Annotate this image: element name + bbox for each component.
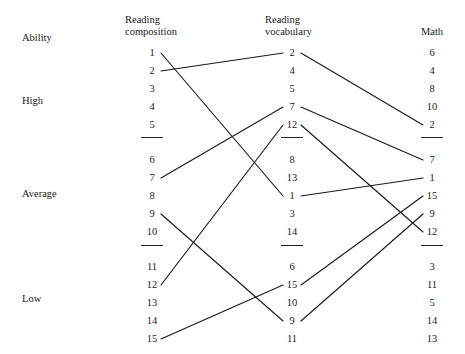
rank-cell: 14: [281, 227, 303, 238]
column-header-reading-composition: Reading composition: [125, 14, 177, 38]
connector-rv-math-pupil-15: [301, 196, 423, 285]
connector-rc-rv-pupil-7: [161, 107, 283, 178]
group-divider: [421, 245, 443, 246]
rank-cell: 13: [141, 298, 163, 309]
connector-rv-math-pupil-2: [301, 53, 423, 125]
rank-cell: 11: [421, 280, 443, 291]
rank-cell: 5: [421, 298, 443, 309]
rank-cell: 6: [141, 155, 163, 166]
rank-cell: 4: [141, 102, 163, 113]
rank-cell: 4: [281, 66, 303, 77]
axis-label-ability: Ability: [22, 33, 52, 44]
column-header-line2: composition: [125, 26, 177, 38]
group-divider: [421, 137, 443, 138]
group-divider: [281, 137, 303, 138]
slopegraph-figure: Ability High Average Low Reading composi…: [0, 0, 465, 354]
group-divider: [141, 137, 163, 138]
rank-cell: 1: [281, 191, 303, 202]
connector-rv-math-pupil-9: [301, 214, 423, 321]
rank-cell: 7: [141, 173, 163, 184]
rank-cell: 10: [281, 298, 303, 309]
rank-cell: 15: [421, 191, 443, 202]
ability-level-average: Average: [22, 189, 57, 200]
rank-cell: 3: [421, 262, 443, 273]
column-header-line2: vocabulary: [265, 26, 312, 38]
rank-cell: 1: [141, 48, 163, 59]
rank-cell: 12: [281, 120, 303, 131]
rank-cell: 8: [421, 84, 443, 95]
rank-cell: 1: [421, 173, 443, 184]
column-header-line1: Reading: [265, 14, 312, 26]
group-divider: [281, 245, 303, 246]
rank-cell: 9: [281, 316, 303, 327]
rank-cell: 2: [141, 66, 163, 77]
connector-rc-rv-pupil-9: [161, 214, 283, 321]
column-header-line1: Reading: [125, 14, 177, 26]
connector-rv-math-pupil-12: [301, 125, 423, 232]
rank-cell: 12: [421, 227, 443, 238]
rank-cell: 9: [421, 209, 443, 220]
connector-lines: [0, 0, 465, 354]
connector-rc-rv-pupil-1: [161, 53, 283, 196]
rank-cell: 2: [421, 120, 443, 131]
connector-rv-math-pupil-1: [301, 178, 423, 196]
rank-cell: 13: [281, 173, 303, 184]
rank-cell: 3: [141, 84, 163, 95]
rank-cell: 8: [281, 155, 303, 166]
connector-rc-rv-pupil-15: [161, 285, 283, 339]
column-header-line1: Math: [410, 26, 454, 38]
rank-cell: 7: [281, 102, 303, 113]
rank-cell: 2: [281, 48, 303, 59]
rank-cell: 5: [141, 120, 163, 131]
connector-rc-rv-pupil-2: [161, 53, 283, 71]
rank-cell: 12: [141, 280, 163, 291]
rank-cell: 5: [281, 84, 303, 95]
rank-cell: 10: [141, 227, 163, 238]
ability-level-high: High: [22, 96, 43, 107]
rank-cell: 11: [141, 262, 163, 273]
column-header-reading-vocabulary: Reading vocabulary: [265, 14, 312, 38]
ability-level-low: Low: [22, 294, 41, 305]
connector-rc-rv-pupil-12: [161, 125, 283, 285]
rank-cell: 6: [281, 262, 303, 273]
rank-cell: 14: [141, 316, 163, 327]
rank-cell: 3: [281, 209, 303, 220]
rank-cell: 11: [281, 334, 303, 345]
group-divider: [141, 245, 163, 246]
connector-rv-math-pupil-7: [301, 107, 423, 160]
rank-cell: 15: [141, 334, 163, 345]
rank-cell: 6: [421, 48, 443, 59]
rank-cell: 4: [421, 66, 443, 77]
rank-cell: 8: [141, 191, 163, 202]
rank-cell: 13: [421, 334, 443, 345]
rank-cell: 10: [421, 102, 443, 113]
rank-cell: 9: [141, 209, 163, 220]
rank-cell: 7: [421, 155, 443, 166]
rank-cell: 15: [281, 280, 303, 291]
rank-cell: 14: [421, 316, 443, 327]
column-header-math: Math: [410, 26, 454, 38]
